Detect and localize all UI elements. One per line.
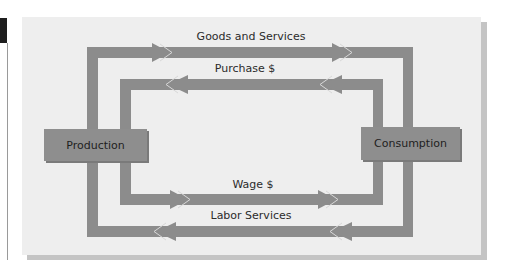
production-label: Production <box>66 139 125 152</box>
consumption-label: Consumption <box>374 137 447 150</box>
label-wage: Wage $ <box>232 178 273 191</box>
label-purchase: Purchase $ <box>215 62 275 75</box>
arrow-wage-1 <box>170 190 190 209</box>
arrow-labor-2 <box>330 222 352 241</box>
production-node: Production <box>44 129 147 161</box>
arrow-purchase-2 <box>320 75 342 94</box>
arrow-purchase-1 <box>166 75 188 94</box>
arrow-goods-1 <box>152 43 172 62</box>
arrow-goods-2 <box>332 43 352 62</box>
arrow-labor-1 <box>154 222 176 241</box>
label-labor-services: Labor Services <box>211 209 292 222</box>
label-goods-and-services: Goods and Services <box>197 30 306 43</box>
consumption-node: Consumption <box>361 127 460 160</box>
arrow-wage-2 <box>318 190 338 209</box>
